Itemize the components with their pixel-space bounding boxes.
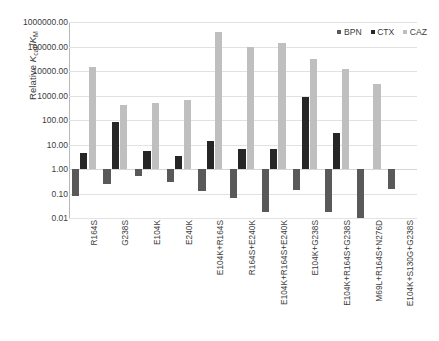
bar-bpn [262, 169, 269, 212]
x-axis-tick: R164S [78, 220, 92, 338]
bar-caz [120, 105, 127, 169]
bar-caz [215, 32, 222, 169]
gridline [69, 218, 417, 219]
bar-group [69, 22, 101, 218]
bar-group [227, 22, 259, 218]
y-axis-tick-label: 100000.00 [6, 42, 68, 52]
bar-bpn [72, 169, 79, 196]
bar-bpn [167, 169, 174, 182]
legend-label: CTX [377, 27, 394, 37]
bar-ctx [270, 149, 277, 169]
legend-item: CTX [371, 27, 395, 37]
x-axis-tick: G238S [109, 220, 123, 338]
bar-group [259, 22, 291, 218]
legend-label: BPN [344, 27, 362, 37]
x-axis-tick: E104K+R164S+G238S [331, 220, 345, 338]
bar-group [385, 22, 417, 218]
bar-group [290, 22, 322, 218]
bar-bpn [103, 169, 110, 184]
x-axis-tick-label: E104K+S130G+G238S [405, 220, 415, 306]
bar-ctx [80, 153, 87, 169]
bar-bpn [230, 169, 237, 198]
x-axis-tick: E104K+R164S+E240K [268, 220, 282, 338]
bar-ctx [143, 151, 150, 169]
x-axis-tick: E104K+S130G+G238S [394, 220, 408, 338]
x-axis-tick: M69L+R164S+N276D [363, 220, 377, 338]
y-axis-tick-label: 0.10 [6, 189, 68, 199]
legend-item: BPN [337, 27, 361, 37]
x-axis-tick: E104K [141, 220, 155, 338]
x-axis-tick: E104K+G238S [299, 220, 313, 338]
x-axis-tick-label: E104K+R164S+G238S [342, 220, 352, 306]
x-axis-tick-label: G238S [120, 220, 130, 246]
bar-group [132, 22, 164, 218]
x-axis-tick-label: E104K+R164S [215, 220, 225, 275]
bar-group [322, 22, 354, 218]
bar-group [101, 22, 133, 218]
bar-group [164, 22, 196, 218]
x-axis-tick-label: E104K [152, 220, 162, 245]
x-axis-tick-label: E240K [184, 220, 194, 245]
x-axis-tick-labels: R164SG238SE104KE240KE104K+R164SR164S+E24… [69, 220, 417, 341]
bar-caz [310, 59, 317, 169]
bar-caz [373, 84, 380, 169]
y-axis-tick-label: 10000.00 [6, 66, 68, 76]
bar-caz [152, 103, 159, 169]
y-axis-tick-label: 10.00 [6, 140, 68, 150]
x-axis-tick-label: E104K+R164S+E240K [279, 220, 289, 305]
legend-swatch-icon [371, 30, 375, 34]
chart-container: Relative Kcat/KM 1000000.00100000.001000… [0, 0, 439, 341]
plot-area [69, 22, 417, 218]
bar-ctx [302, 97, 309, 169]
bar-bpn [325, 169, 332, 212]
bar-caz [184, 100, 191, 169]
bar-caz [278, 43, 285, 169]
legend-swatch-icon [403, 30, 407, 34]
bar-ctx [238, 149, 245, 169]
bar-caz [247, 47, 254, 169]
bar-group [196, 22, 228, 218]
bar-bpn [293, 169, 300, 190]
x-axis-tick-label: R164S+E240K [247, 220, 257, 275]
chart-legend: BPNCTXCAZ [337, 27, 427, 37]
y-axis-tick-label: 0.01 [6, 213, 68, 223]
bar-ctx [333, 133, 340, 169]
bar-caz [342, 69, 349, 169]
legend-item: CAZ [403, 27, 427, 37]
x-axis-tick-label: E104K+G238S [310, 220, 320, 276]
y-axis-tick-label: 1000000.00 [6, 17, 68, 27]
bar-group [354, 22, 386, 218]
bar-bpn [388, 169, 395, 189]
bar-bpn [357, 169, 364, 218]
x-axis-tick: E240K [173, 220, 187, 338]
x-axis-tick: R164S+E240K [236, 220, 250, 338]
y-axis-tick-label: 1000.00 [6, 91, 68, 101]
bar-bpn [135, 169, 142, 176]
bar-caz [89, 67, 96, 169]
y-axis-tick-label: 100.00 [6, 115, 68, 125]
bar-bpn [198, 169, 205, 191]
legend-label: CAZ [410, 27, 427, 37]
legend-swatch-icon [337, 30, 341, 34]
bar-ctx [207, 141, 214, 169]
y-axis-tick-label: 1.00 [6, 164, 68, 174]
y-axis-tick-labels: 1000000.00100000.0010000.001000.00100.00… [0, 0, 68, 341]
x-axis-tick-label: M69L+R164S+N276D [374, 220, 384, 302]
bar-ctx [175, 156, 182, 169]
x-axis-tick-label: R164S [89, 220, 99, 245]
x-axis-tick: E104K+R164S [204, 220, 218, 338]
bar-ctx [112, 122, 119, 169]
